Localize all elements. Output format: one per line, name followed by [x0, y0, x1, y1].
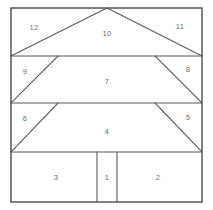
- figure-canvas: 1 2 3 4 5 6 7 8 9 10 11 12: [0, 0, 213, 210]
- region-label-4: 4: [105, 127, 109, 136]
- region-label-1: 1: [105, 173, 109, 182]
- region-label-12: 12: [30, 23, 39, 32]
- region-label-9: 9: [23, 67, 27, 76]
- region-label-2: 2: [156, 173, 160, 182]
- region-label-6: 6: [23, 114, 27, 123]
- region-label-11: 11: [176, 22, 184, 31]
- region-label-3: 3: [54, 173, 58, 182]
- region-label-8: 8: [186, 65, 190, 74]
- region-label-10: 10: [103, 29, 112, 38]
- region-label-7: 7: [105, 77, 109, 86]
- region-label-5: 5: [186, 113, 190, 122]
